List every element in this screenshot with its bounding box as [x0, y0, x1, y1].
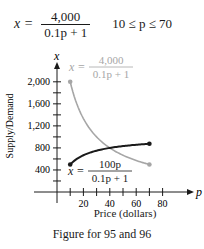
equation-denominator: 0.1p + 1 [41, 25, 90, 40]
y-tick-label: 800 [35, 142, 50, 153]
y-tick-label: 1,200 [28, 120, 51, 131]
x-axis-label: Price (dollars) [60, 207, 190, 219]
x-axis-variable: p [195, 185, 202, 199]
y-axis-variable: x [53, 50, 60, 63]
equation-numerator: 4,000 [48, 9, 83, 24]
figure-caption: Figure for 95 and 96 [0, 227, 204, 242]
y-tick-label: 2,000 [28, 76, 51, 87]
demand-end-point [147, 162, 152, 167]
demand-label-lhs: x = [68, 60, 85, 74]
equation-demand: x = 4,000 0.1p + 1 10 ≤ p ≤ 70 [14, 4, 172, 44]
demand-curve [70, 82, 149, 165]
equation-fraction: 4,000 0.1p + 1 [41, 9, 90, 40]
y-tick-label: 1,600 [28, 98, 51, 109]
demand-label-denominator: 0.1p + 1 [93, 68, 129, 80]
demand-start-point [68, 80, 73, 85]
equation-domain: 10 ≤ p ≤ 70 [112, 16, 172, 32]
supply-label-denominator: 0.1p + 1 [92, 172, 128, 184]
x-axis-arrow-icon [187, 189, 194, 195]
y-tick-label: 400 [35, 164, 50, 175]
supply-end-point [147, 141, 152, 146]
supply-label-lhs: x = [67, 164, 84, 178]
y-axis-arrow-icon [54, 62, 60, 69]
supply-demand-chart: px4008001,2001,6002,00020406080Supply/De… [0, 50, 204, 210]
supply-label-numerator: 100p [99, 158, 122, 170]
y-axis-label: Supply/Demand [4, 93, 15, 158]
equation-lhs: x = [14, 16, 33, 32]
demand-label-numerator: 4,000 [99, 54, 124, 66]
